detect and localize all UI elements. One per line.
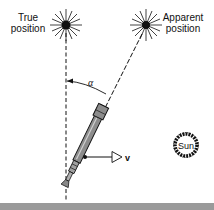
- velocity-label: v: [125, 153, 130, 163]
- angle-alpha-arc: [67, 79, 106, 95]
- true-position-label-line1: True: [8, 12, 48, 23]
- true-position-label: True position: [8, 12, 48, 34]
- apparent-position-label: Apparent position: [158, 12, 208, 34]
- velocity-arrow-icon: [83, 152, 122, 163]
- sun-label: Sun: [178, 141, 194, 151]
- angle-alpha-label: α: [88, 77, 94, 88]
- true-position-label-line2: position: [8, 23, 48, 34]
- telescope-icon: [60, 103, 109, 188]
- apparent-direction-dashed-line: [104, 34, 142, 110]
- apparent-position-label-line1: Apparent: [158, 12, 208, 23]
- apparent-position-label-line2: position: [158, 23, 208, 34]
- bottom-divider-bar: [0, 203, 214, 210]
